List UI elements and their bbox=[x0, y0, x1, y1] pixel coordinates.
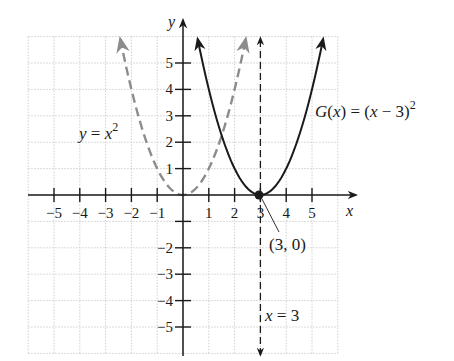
label-y-equals-x-squared: y = x2 bbox=[77, 120, 118, 143]
y-tick-label: −5 bbox=[157, 319, 173, 335]
y-tick-label: −2 bbox=[157, 240, 173, 256]
y-tick-label: 2 bbox=[166, 134, 174, 150]
y-tick-label: −3 bbox=[157, 266, 173, 282]
y-tick-label: 5 bbox=[166, 55, 174, 71]
vertex-point bbox=[255, 191, 264, 200]
x-axis-label: x bbox=[345, 202, 353, 219]
parabola-graph: −5−4−3−2−11234554321−2−3−4−5 x y y = x2 … bbox=[0, 0, 454, 361]
vertex-leader-line bbox=[262, 199, 279, 232]
y-axis-label: y bbox=[166, 13, 176, 31]
y-tick-label: 3 bbox=[166, 108, 174, 124]
x-tick-label: −2 bbox=[123, 205, 139, 221]
x-tick-label: −5 bbox=[46, 205, 62, 221]
x-tick-label: 5 bbox=[308, 205, 316, 221]
label-x-equals-3: x = 3 bbox=[264, 306, 299, 325]
x-tick-label: −1 bbox=[149, 205, 165, 221]
label-vertex: (3, 0) bbox=[269, 235, 306, 254]
y-tick-label: 1 bbox=[166, 161, 174, 177]
y-tick-label: −4 bbox=[157, 293, 173, 309]
y-tick-label: 4 bbox=[166, 81, 174, 97]
x-tick-label: −3 bbox=[98, 205, 114, 221]
label-g-of-x: G(x) = (x − 3)2 bbox=[315, 98, 416, 121]
x-tick-label: 1 bbox=[205, 205, 213, 221]
x-tick-label: 4 bbox=[282, 205, 290, 221]
x-tick-label: 2 bbox=[231, 205, 239, 221]
x-tick-label: 3 bbox=[257, 205, 265, 221]
x-tick-label: −4 bbox=[72, 205, 88, 221]
